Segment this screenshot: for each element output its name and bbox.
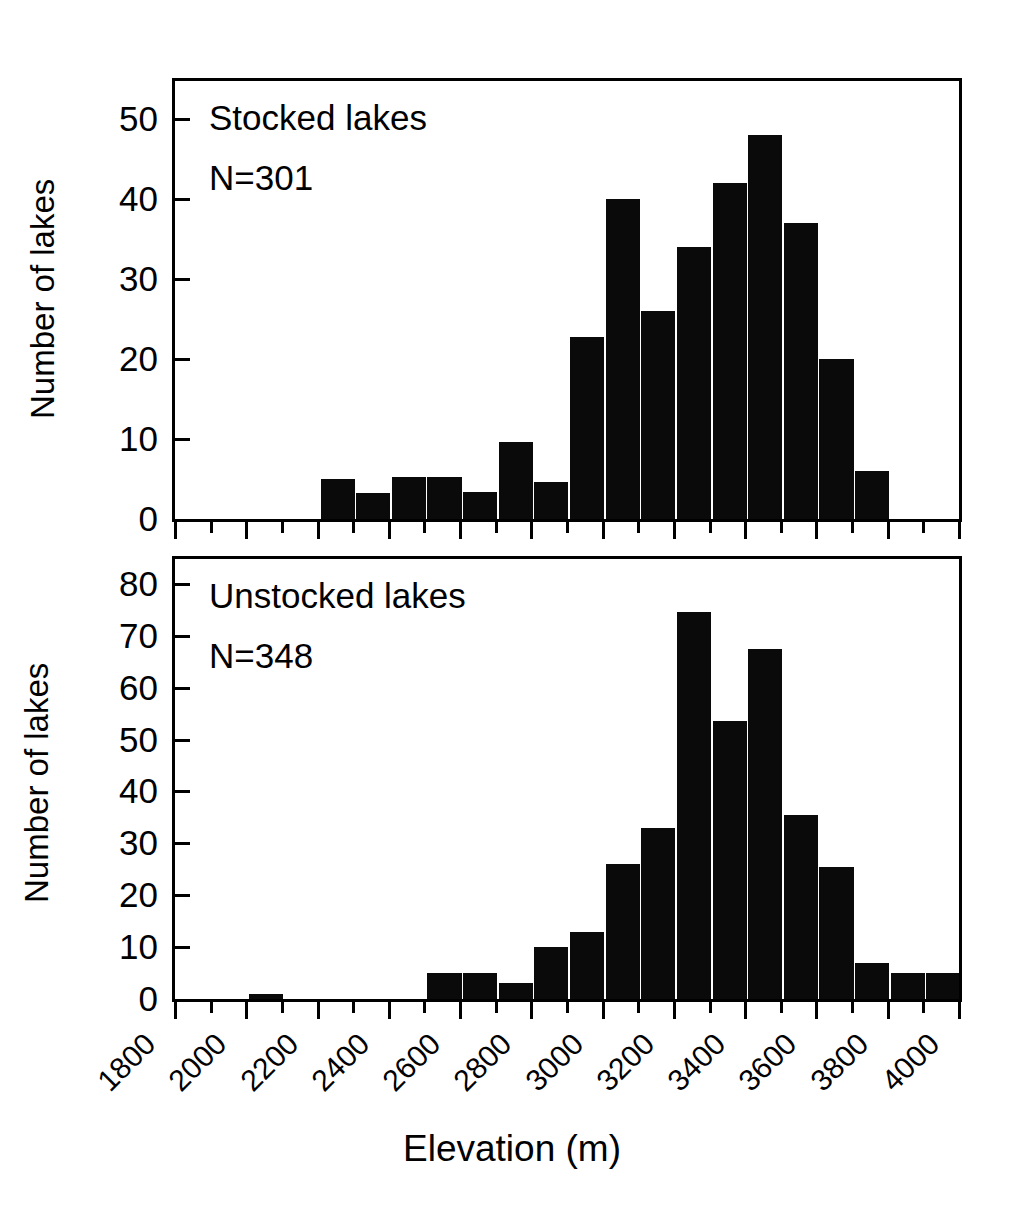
y-axis-tick <box>175 894 190 897</box>
x-axis-tick-label: 2200 <box>234 1027 304 1097</box>
histogram-bar <box>499 983 533 999</box>
y-axis-tick-label: 20 <box>68 341 158 376</box>
x-axis-minor-tick <box>423 999 426 1013</box>
y-axis-tick-label: 50 <box>68 101 158 136</box>
y-axis-title-top: Number of lakes <box>23 189 63 419</box>
y-axis-tick <box>175 583 190 586</box>
x-axis-minor-tick <box>566 999 569 1013</box>
x-axis-minor-tick <box>851 519 854 533</box>
x-axis-title: Elevation (m) <box>0 1128 1024 1170</box>
x-axis-tick-label: 3000 <box>519 1027 589 1097</box>
x-axis-major-tick <box>673 999 676 1019</box>
panel-unstocked-lakes: Unstocked lakes N=348 <box>172 556 962 1002</box>
x-axis-tick-label: 1800 <box>92 1027 162 1097</box>
x-axis-tick-label: 2800 <box>448 1027 518 1097</box>
x-axis-major-tick <box>388 999 391 1019</box>
histogram-bar <box>713 721 747 999</box>
y-axis-tick <box>175 946 190 949</box>
x-axis-minor-tick <box>281 999 284 1013</box>
y-axis-tick <box>175 687 190 690</box>
x-axis-major-tick <box>602 999 605 1019</box>
y-axis-tick <box>175 739 190 742</box>
histogram-bar <box>463 973 497 999</box>
x-axis-minor-tick <box>210 999 213 1013</box>
x-axis-minor-tick <box>780 519 783 533</box>
x-axis-major-tick <box>958 999 961 1019</box>
x-axis-major-tick <box>245 519 248 539</box>
y-axis-tick <box>175 358 190 361</box>
panel-title-unstocked: Unstocked lakes <box>209 573 466 619</box>
histogram-bar <box>677 612 711 999</box>
x-axis-major-tick <box>530 999 533 1019</box>
x-axis-tick-label: 3400 <box>662 1027 732 1097</box>
x-axis-major-tick <box>317 519 320 539</box>
histogram-bar <box>677 247 711 519</box>
x-axis-major-tick <box>174 519 177 539</box>
x-axis-tick-label: 3200 <box>591 1027 661 1097</box>
y-axis-tick-label: 80 <box>68 566 158 601</box>
x-axis-tick-label: 3600 <box>733 1027 803 1097</box>
y-axis-tick-label: 30 <box>68 261 158 296</box>
x-axis-major-tick <box>174 999 177 1019</box>
histogram-bar <box>784 815 818 999</box>
x-axis-minor-tick <box>922 519 925 533</box>
histogram-bar <box>606 199 640 519</box>
x-axis-major-tick <box>602 519 605 539</box>
x-axis-major-tick <box>744 519 747 539</box>
y-axis-tick <box>175 198 190 201</box>
x-axis-major-tick <box>744 999 747 1019</box>
y-axis-tick-label: 0 <box>68 981 158 1016</box>
x-axis-major-tick <box>815 519 818 539</box>
y-axis-tick <box>175 635 190 638</box>
x-axis-major-tick <box>958 519 961 539</box>
histogram-bar <box>748 135 782 519</box>
histogram-bar <box>855 963 889 999</box>
x-axis-minor-tick <box>780 999 783 1013</box>
histogram-bar <box>891 973 925 999</box>
x-axis-minor-tick <box>495 519 498 533</box>
x-axis-tick-label: 3800 <box>804 1027 874 1097</box>
y-axis-tick-label: 30 <box>68 825 158 860</box>
histogram-bar <box>926 973 959 999</box>
panel-stocked-lakes: Stocked lakes N=301 <box>172 78 962 522</box>
y-axis-title-bottom: Number of lakes <box>17 673 57 903</box>
histogram-bar <box>748 649 782 999</box>
x-axis-major-tick <box>815 999 818 1019</box>
plot-area-unstocked <box>175 559 959 999</box>
y-axis-tick <box>175 118 190 121</box>
x-axis-tick-label: 2000 <box>163 1027 233 1097</box>
x-axis-major-tick <box>388 519 391 539</box>
y-axis-tick <box>175 278 190 281</box>
histogram-bar <box>784 223 818 519</box>
histogram-bar <box>534 482 568 519</box>
x-axis-minor-tick <box>566 519 569 533</box>
y-axis-tick <box>175 438 190 441</box>
y-axis-tick <box>175 790 190 793</box>
y-axis-tick-label: 0 <box>68 501 158 536</box>
histogram-bar <box>819 867 853 999</box>
histogram-bar <box>641 311 675 519</box>
panel-n-stocked: N=301 <box>209 155 313 201</box>
x-axis-major-tick <box>245 999 248 1019</box>
x-axis-minor-tick <box>352 999 355 1013</box>
y-axis-tick-label: 20 <box>68 877 158 912</box>
x-axis-minor-tick <box>922 999 925 1013</box>
histogram-bar <box>570 932 604 999</box>
x-axis-major-tick <box>530 519 533 539</box>
y-axis-tick-label: 60 <box>68 670 158 705</box>
x-axis-minor-tick <box>352 519 355 533</box>
histogram-bar <box>713 183 747 519</box>
x-axis-minor-tick <box>637 999 640 1013</box>
panel-n-unstocked: N=348 <box>209 633 313 679</box>
histogram-bar <box>606 864 640 999</box>
y-axis-tick-label: 70 <box>68 618 158 653</box>
histogram-bar <box>819 359 853 519</box>
x-axis-minor-tick <box>423 519 426 533</box>
histogram-bar <box>427 477 461 519</box>
figure-histograms: Number of lakes Number of lakes Stocked … <box>0 0 1024 1218</box>
histogram-bar <box>321 479 355 519</box>
x-axis-major-tick <box>887 519 890 539</box>
plot-area-stocked <box>175 81 959 519</box>
histogram-bar <box>534 947 568 999</box>
x-axis-minor-tick <box>495 999 498 1013</box>
